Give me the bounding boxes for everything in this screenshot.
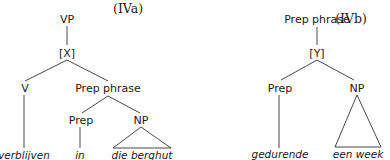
tree-iva: (IVa) VP [X] V Prep phrase Prep NP verbl… xyxy=(0,1,173,160)
terminal-een-week: een week xyxy=(333,148,384,160)
node-prep-phrase-root: Prep phrase xyxy=(284,13,350,26)
terminal-verblijven: verblijven xyxy=(0,149,50,160)
tree-ivb: (IVb) Prep phrase [Y] Prep NP gedurende … xyxy=(251,11,384,160)
syntax-tree-figure: (IVa) VP [X] V Prep phrase Prep NP verbl… xyxy=(0,0,390,160)
node-y: [Y] xyxy=(309,47,324,60)
node-prep: Prep xyxy=(69,114,93,127)
np-triangle xyxy=(113,127,171,148)
terminal-in: in xyxy=(75,149,85,160)
node-np: NP xyxy=(134,114,149,127)
node-x: [X] xyxy=(59,47,75,60)
node-np-b: NP xyxy=(350,82,365,95)
node-prep-b: Prep xyxy=(268,82,292,95)
edge-y-np xyxy=(317,60,354,80)
edge-x-pp xyxy=(67,60,108,81)
edge-y-prep xyxy=(281,60,317,80)
tree-tag-iva: (IVa) xyxy=(113,1,143,16)
node-v: V xyxy=(21,82,29,95)
np-triangle-b xyxy=(335,95,381,147)
edge-pp-np xyxy=(108,96,140,113)
edge-pp-prep xyxy=(82,96,108,113)
terminal-die-berghut: die berghut xyxy=(112,149,174,160)
node-prep-phrase: Prep phrase xyxy=(75,82,141,95)
edge-x-v xyxy=(25,60,67,81)
terminal-gedurende: gedurende xyxy=(251,148,308,160)
node-vp: VP xyxy=(60,13,75,26)
